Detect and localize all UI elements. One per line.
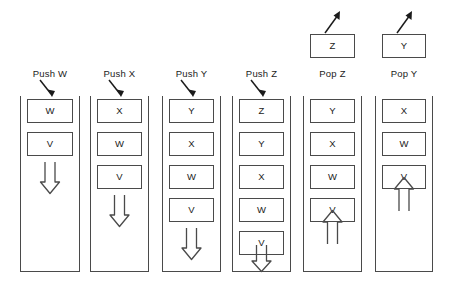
column-caption: Pop Z	[303, 68, 362, 79]
stack-column-push-z: Push Z Z Y X W V	[232, 0, 291, 290]
stack-cell: X	[382, 99, 426, 123]
arrow-down-right-icon	[90, 0, 149, 100]
stack-column-push-y: Push Y Y X W V	[162, 0, 221, 290]
stack-cell: Y	[169, 99, 214, 123]
stack-operations-diagram: Push W W V Push X X W V	[0, 0, 451, 290]
stack-cell: X	[310, 132, 355, 156]
stack-column-push-x: Push X X W V	[90, 0, 149, 290]
popped-element: Z	[310, 34, 355, 58]
stack-cell: Y	[310, 99, 355, 123]
arrow-up-right-icon	[303, 6, 362, 36]
stack-cell: W	[310, 165, 355, 189]
stack-cell: X	[169, 132, 214, 156]
column-caption: Pop Y	[375, 68, 433, 79]
stack-cell: V	[97, 165, 142, 189]
stack-cell: W	[382, 132, 426, 156]
double-arrow-down-icon	[232, 244, 291, 274]
arrow-down-right-icon	[162, 0, 221, 100]
stack-cell: X	[239, 165, 284, 189]
popped-element: Y	[382, 34, 426, 58]
stack-column-pop-z: Z Pop Z Y X W V	[303, 0, 362, 290]
stack-cells: Y X W V	[303, 99, 362, 275]
double-arrow-up-icon	[375, 175, 433, 213]
stack-cell: V	[169, 198, 214, 222]
stack-cell: Y	[239, 132, 284, 156]
stack-column-push-w: Push W W V	[20, 0, 80, 290]
stack-cell: Z	[239, 99, 284, 123]
stack-cell: W	[239, 198, 284, 222]
double-arrow-down-icon	[20, 160, 80, 196]
arrow-down-right-icon	[232, 0, 291, 100]
arrow-up-right-icon	[375, 6, 433, 36]
stack-cell: W	[169, 165, 214, 189]
stack-column-pop-y: Y Pop Y X W V	[375, 0, 433, 290]
stack-cell: X	[97, 99, 142, 123]
stack-cell: W	[97, 132, 142, 156]
arrow-down-right-icon	[20, 0, 80, 100]
double-arrow-down-icon	[162, 226, 221, 262]
stack-cell: V	[27, 132, 73, 156]
stack-cells: X W V	[90, 99, 149, 275]
double-arrow-up-icon	[303, 208, 362, 246]
double-arrow-down-icon	[90, 193, 149, 229]
stack-cell: W	[27, 99, 73, 123]
